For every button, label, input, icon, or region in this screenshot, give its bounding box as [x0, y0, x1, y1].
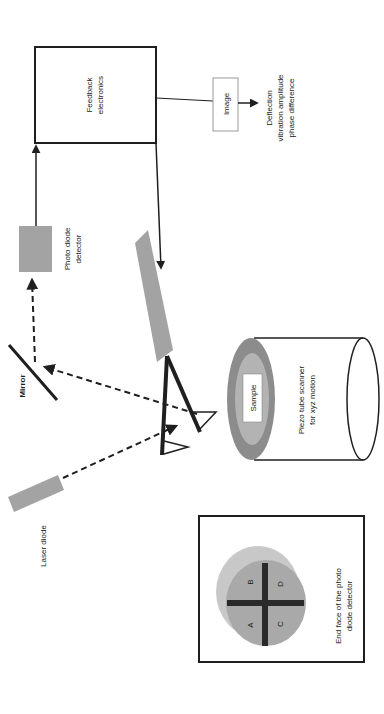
- feedback-to-image-line: [156, 98, 213, 101]
- output-line1: Deflection: [265, 90, 274, 126]
- laser-label: Laser diode: [39, 525, 48, 567]
- quadrant-a: A: [246, 622, 255, 628]
- feedback-label-line1: Feedback: [85, 76, 94, 112]
- detector-end-face-inset: A B C D End face of the photo diode dete…: [199, 516, 364, 662]
- quadrant-divider-vertical: [262, 563, 268, 646]
- feedback-electronics-box: Feedback electronics: [35, 47, 156, 143]
- output-line3: phase difference: [287, 78, 296, 138]
- output-signals-label: Deflection vibration amplitude phase dif…: [265, 74, 296, 142]
- piezo-label-line1: Piezo tube scanner: [297, 365, 306, 434]
- image-box: Image: [213, 78, 238, 131]
- mirror: Mirror: [9, 345, 57, 400]
- mirror-label: Mirror: [18, 374, 27, 397]
- photodiode-label-line1: Photo diode: [63, 227, 72, 270]
- piezo-label-line2: for xyz motion: [308, 375, 317, 425]
- photodiode-label-line2: detector: [74, 234, 83, 263]
- laser-beam-to-detector: [32, 280, 35, 362]
- sample-label: Sample: [249, 384, 258, 412]
- feedback-to-scanner-arrow: [156, 143, 161, 268]
- laser-diode: Laser diode: [8, 475, 64, 567]
- output-line2: vibration amplitude: [276, 74, 285, 142]
- tip-left: [164, 441, 188, 454]
- quadrant-b: B: [246, 579, 255, 584]
- feedback-label-line2: electronics: [96, 76, 105, 114]
- piezo-tube-scanner: Sample Piezo tube scanner for xyz motion: [227, 338, 379, 460]
- image-label: Image: [222, 92, 231, 115]
- quadrant-d: D: [276, 581, 285, 587]
- photodiode-detector: Photo diode detector: [19, 226, 83, 272]
- detector-face-label-line2: diode detector: [345, 580, 354, 631]
- afm-diagram: Feedback electronics Image Deflection vi…: [0, 0, 384, 714]
- cantilever-holder: [135, 230, 173, 362]
- laser-beam-incident: [63, 426, 176, 478]
- quadrant-c: C: [276, 621, 285, 627]
- detector-face-label-line1: End face of the photo: [334, 567, 343, 644]
- cantilever: [162, 356, 216, 455]
